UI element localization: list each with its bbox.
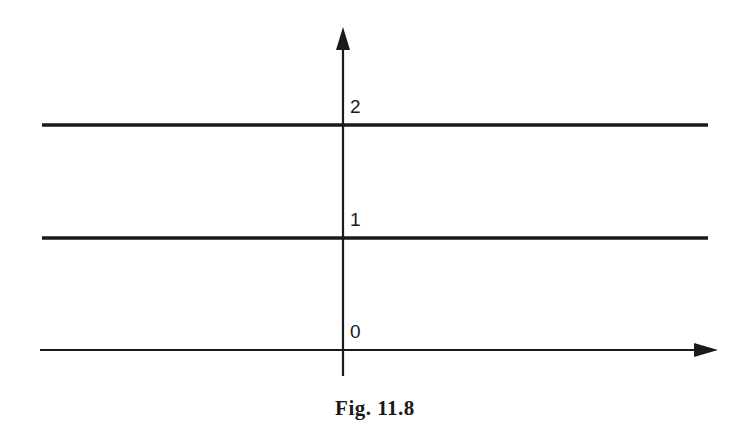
figure-caption: Fig. 11.8 — [0, 396, 750, 421]
y-tick-label-2: 2 — [350, 97, 361, 116]
y-tick-label-1: 1 — [350, 210, 361, 229]
plot-canvas — [0, 0, 750, 433]
y-tick-label-0: 0 — [350, 322, 361, 341]
arrow-right-icon — [694, 343, 718, 357]
arrow-up-icon — [336, 27, 350, 50]
figure-container: 2 1 0 Fig. 11.8 — [0, 0, 750, 433]
